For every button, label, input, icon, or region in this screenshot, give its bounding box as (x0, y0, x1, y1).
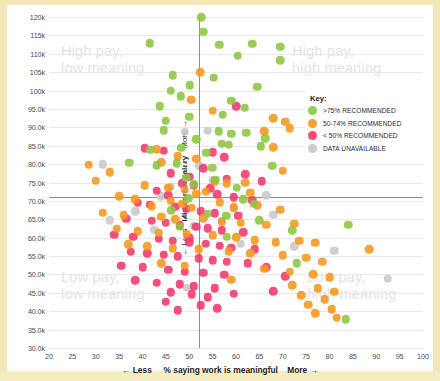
scatter-point (127, 247, 136, 256)
scatter-point (242, 129, 251, 138)
scatter-point (192, 189, 201, 198)
scatter-point (199, 27, 208, 36)
scatter-point (162, 297, 171, 306)
scatter-point (241, 178, 250, 187)
x-axis-tick-label: 100 (417, 352, 429, 361)
scatter-point (236, 219, 245, 228)
scatter-point (384, 275, 393, 284)
scatter-point (197, 301, 206, 310)
gridline-horizontal (49, 35, 423, 36)
scatter-point (314, 284, 323, 293)
scatter-point (225, 141, 234, 150)
scatter-point (286, 267, 295, 276)
scatter-point (166, 86, 175, 95)
scatter-point (243, 259, 252, 268)
scatter-point (293, 259, 302, 268)
scatter-point (183, 230, 192, 239)
scatter-point (180, 186, 189, 195)
scatter-point (124, 240, 133, 249)
scatter-point (325, 273, 334, 282)
scatter-point (180, 128, 189, 137)
scatter-point (295, 237, 304, 246)
scatter-point (342, 315, 351, 324)
gridline-horizontal (49, 274, 423, 275)
y-axis-tick-label: 85.0k (28, 141, 45, 150)
gridline-horizontal (49, 72, 423, 73)
y-axis-tick-label: 50.0k (28, 270, 45, 279)
legend-swatch-icon (308, 106, 317, 115)
y-axis-tick-label: 55.0k (28, 252, 45, 261)
x-axis-tick-label: 25 (68, 352, 76, 361)
scatter-point (208, 256, 217, 265)
scatter-point (261, 134, 270, 143)
scatter-point (156, 102, 165, 111)
scatter-point (192, 222, 201, 231)
scatter-point (192, 155, 201, 164)
scatter-point (187, 290, 196, 299)
scatter-point (321, 295, 330, 304)
gridline-horizontal (49, 311, 423, 312)
x-axis-tick-label: 80 (326, 352, 334, 361)
scatter-point (202, 148, 211, 157)
x-axis-tick-label: 75 (302, 352, 310, 361)
scatter-point (332, 314, 341, 323)
y-axis-tick-label: 95.0k (28, 104, 45, 113)
scatter-point (276, 43, 285, 52)
scatter-point (99, 160, 108, 169)
x-axis-tick-label: 35 (115, 352, 123, 361)
scatter-point (176, 280, 185, 289)
scatter-point (288, 226, 297, 235)
scatter-point (199, 269, 208, 278)
scatter-point (208, 107, 217, 116)
scatter-point (141, 181, 150, 190)
x-axis-title: ← Less % saying work is meaningful More … (7, 365, 433, 375)
scatter-point (222, 179, 231, 188)
scatter-point (190, 180, 199, 189)
scatter-point (234, 51, 243, 60)
scatter-point (241, 104, 250, 113)
scatter-point (113, 225, 122, 234)
scatter-point (276, 56, 285, 65)
scatter-point (167, 206, 176, 215)
scatter-point (257, 177, 266, 186)
scatter-point (214, 127, 223, 136)
scatter-point (106, 216, 115, 225)
scatter-point (365, 245, 374, 254)
scatter-point (297, 291, 306, 300)
scatter-point (232, 233, 241, 242)
x-axis-title-text: % saying work is meaningful (163, 365, 278, 375)
x-axis-less-label: ← Less (122, 365, 152, 375)
scatter-point (286, 124, 295, 133)
scatter-point (288, 281, 297, 290)
scatter-point (276, 205, 285, 214)
legend-item: DATA UNAVAILABLE (308, 144, 426, 153)
scatter-point (246, 189, 255, 198)
scatter-point (148, 217, 157, 226)
x-axis-tick-label: 50 (185, 352, 193, 361)
scatter-point (311, 309, 320, 318)
scatter-point (227, 129, 236, 138)
scatter-point (169, 71, 178, 80)
scatter-point (159, 251, 168, 260)
scatter-point (146, 146, 155, 155)
scatter-point (182, 173, 191, 182)
scatter-point (304, 300, 313, 309)
scatter-point (173, 306, 182, 315)
scatter-point (229, 193, 238, 202)
gridline-horizontal (49, 256, 423, 257)
scatter-point (152, 161, 161, 170)
scatter-point (162, 116, 171, 125)
x-axis-tick-label: 65 (255, 352, 263, 361)
scatter-point (192, 135, 201, 144)
scatter-point (117, 261, 126, 270)
y-axis-tick-label: 90.0k (28, 123, 45, 132)
scatter-point (148, 202, 157, 211)
scatter-point (131, 276, 140, 285)
y-axis-tick-label: 30.0k (28, 344, 45, 353)
scatter-point (134, 227, 143, 236)
scatter-point (208, 164, 217, 173)
scatter-point (185, 81, 194, 90)
scatter-point (176, 222, 185, 231)
y-axis-tick-label: 40.0k (28, 307, 45, 316)
y-axis-tick-label: 35.0k (28, 325, 45, 334)
